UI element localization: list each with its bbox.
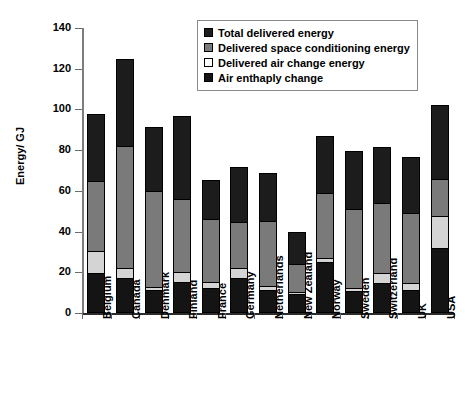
y-tick-label: 0 [31, 306, 71, 318]
legend-item: Air enthaply change [204, 70, 410, 85]
bar-group [173, 28, 191, 313]
y-tick: 60 [75, 191, 82, 192]
y-axis-title: Energy/ GJ [14, 96, 26, 216]
bar-segment [230, 278, 248, 313]
y-tick-label: 80 [31, 143, 71, 155]
bar-segment [202, 288, 220, 313]
bar-segment [373, 283, 391, 313]
bar-group [116, 28, 134, 313]
y-tick: 140 [75, 28, 82, 29]
x-tick [82, 313, 83, 319]
legend-swatch-icon [204, 58, 213, 67]
y-tick: 20 [75, 272, 82, 273]
legend-label: Total delivered energy [218, 27, 334, 39]
legend-item: Delivered air change energy [204, 55, 410, 70]
y-tick: 100 [75, 109, 82, 110]
bar-segment [345, 291, 363, 313]
y-tick: 0 [75, 313, 82, 314]
legend-label: Delivered air change energy [218, 57, 365, 69]
bar-segment [288, 294, 306, 313]
legend-label: Air enthaply change [218, 72, 323, 84]
chart-legend: Total delivered energyDelivered space co… [197, 20, 418, 91]
bar-segment [87, 273, 105, 313]
bar-segment [259, 290, 277, 313]
y-tick-label: 20 [31, 265, 71, 277]
bar-segment [145, 290, 163, 313]
y-tick-label: 40 [31, 225, 71, 237]
y-tick: 40 [75, 232, 82, 233]
legend-swatch-icon [204, 28, 213, 37]
bar-segment [116, 278, 134, 313]
y-tick: 120 [75, 69, 82, 70]
legend-swatch-icon [204, 43, 213, 52]
y-tick-label: 120 [31, 62, 71, 74]
legend-label: Delivered space conditioning energy [218, 42, 410, 54]
y-tick-label: 140 [31, 21, 71, 33]
bar-segment [431, 248, 449, 313]
y-tick-label: 60 [31, 184, 71, 196]
legend-item: Total delivered energy [204, 25, 410, 40]
legend-item: Delivered space conditioning energy [204, 40, 410, 55]
bar-segment [173, 282, 191, 313]
bar-chart: Energy/ GJ 020406080100120140 BelgiumCan… [0, 0, 465, 419]
bar-group [87, 28, 105, 313]
bar-group [145, 28, 163, 313]
bar-segment [316, 262, 334, 313]
y-tick-label: 100 [31, 102, 71, 114]
bar-segment [402, 290, 420, 313]
y-tick: 80 [75, 150, 82, 151]
legend-swatch-icon [204, 73, 213, 82]
bar-group [431, 28, 449, 313]
